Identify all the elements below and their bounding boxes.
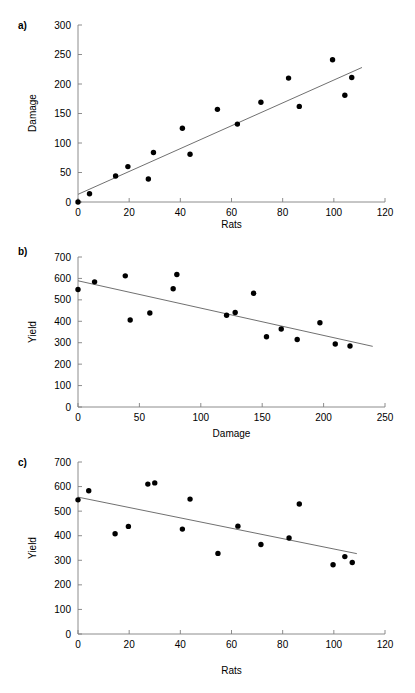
data-point xyxy=(251,291,256,296)
data-point xyxy=(232,310,237,315)
data-point xyxy=(349,75,354,80)
x-tick-label: 250 xyxy=(377,412,394,423)
data-point xyxy=(92,279,97,284)
x-tick-label: 20 xyxy=(124,207,136,218)
data-point xyxy=(330,562,335,567)
x-tick-label: 20 xyxy=(124,639,136,650)
panel-a-plot: 020406080100120050100150200250300RatsDam… xyxy=(0,0,415,235)
data-point xyxy=(330,57,335,62)
data-point xyxy=(286,535,291,540)
x-tick-label: 0 xyxy=(75,412,81,423)
x-tick-label: 50 xyxy=(134,412,146,423)
y-tick-label: 200 xyxy=(54,79,71,90)
figure-scatter-panels: a) 020406080100120050100150200250300Rats… xyxy=(0,0,415,693)
y-tick-label: 600 xyxy=(54,481,71,492)
y-tick-label: 700 xyxy=(54,252,71,263)
y-tick-label: 50 xyxy=(60,167,72,178)
y-tick-label: 0 xyxy=(65,402,71,413)
data-point xyxy=(86,488,91,493)
data-point xyxy=(127,317,132,322)
x-tick-label: 80 xyxy=(277,639,289,650)
data-point xyxy=(152,480,157,485)
x-axis-title: Rats xyxy=(221,219,242,230)
x-tick-label: 0 xyxy=(75,639,81,650)
data-point xyxy=(297,501,302,506)
x-tick-label: 100 xyxy=(192,412,209,423)
x-tick-label: 100 xyxy=(325,207,342,218)
data-point xyxy=(146,176,151,181)
y-axis-title: Damage xyxy=(27,94,38,132)
x-axis-title: Rats xyxy=(221,665,242,676)
y-tick-label: 100 xyxy=(54,380,71,391)
regression-line xyxy=(78,67,362,194)
y-tick-label: 300 xyxy=(54,337,71,348)
y-tick-label: 500 xyxy=(54,294,71,305)
data-point xyxy=(113,173,118,178)
data-point xyxy=(75,199,80,204)
y-tick-label: 0 xyxy=(65,197,71,208)
data-point xyxy=(258,100,263,105)
y-tick-label: 200 xyxy=(54,579,71,590)
y-tick-label: 250 xyxy=(54,49,71,60)
y-tick-label: 0 xyxy=(65,629,71,640)
data-point xyxy=(126,524,131,529)
data-point xyxy=(215,107,220,112)
y-tick-label: 500 xyxy=(54,506,71,517)
data-point xyxy=(279,326,284,331)
y-tick-label: 300 xyxy=(54,555,71,566)
data-point xyxy=(75,497,80,502)
y-tick-label: 600 xyxy=(54,273,71,284)
data-point xyxy=(317,320,322,325)
data-point xyxy=(87,191,92,196)
y-tick-label: 100 xyxy=(54,138,71,149)
data-point xyxy=(123,273,128,278)
data-point xyxy=(174,272,179,277)
data-point xyxy=(112,531,117,536)
y-tick-label: 400 xyxy=(54,530,71,541)
x-tick-label: 60 xyxy=(226,639,238,650)
data-point xyxy=(224,313,229,318)
data-point xyxy=(333,341,338,346)
y-axis-title: Yield xyxy=(27,321,38,343)
data-point xyxy=(347,343,352,348)
data-point xyxy=(75,287,80,292)
y-tick-label: 100 xyxy=(54,604,71,615)
data-point xyxy=(187,152,192,157)
x-tick-label: 40 xyxy=(175,207,187,218)
panel-a: a) 020406080100120050100150200250300Rats… xyxy=(0,0,415,235)
data-point xyxy=(258,542,263,547)
x-tick-label: 120 xyxy=(377,639,394,650)
x-tick-label: 60 xyxy=(226,207,238,218)
data-point xyxy=(235,121,240,126)
panel-c-plot: 0204060801001200100200300400500600700Rat… xyxy=(0,452,415,693)
regression-line xyxy=(78,497,357,554)
x-tick-label: 200 xyxy=(315,412,332,423)
data-point xyxy=(297,104,302,109)
data-point xyxy=(264,334,269,339)
data-point xyxy=(342,554,347,559)
panel-c: c) 0204060801001200100200300400500600700… xyxy=(0,452,415,693)
y-tick-label: 400 xyxy=(54,316,71,327)
y-tick-label: 700 xyxy=(54,457,71,468)
x-tick-label: 0 xyxy=(75,207,81,218)
data-point xyxy=(180,126,185,131)
y-tick-label: 300 xyxy=(54,20,71,31)
x-tick-label: 120 xyxy=(377,207,394,218)
data-point xyxy=(342,93,347,98)
data-point xyxy=(147,310,152,315)
data-point xyxy=(215,551,220,556)
y-tick-label: 150 xyxy=(54,108,71,119)
x-tick-label: 80 xyxy=(277,207,289,218)
panel-b-plot: 0501001502002500100200300400500600700Dam… xyxy=(0,232,415,460)
x-tick-label: 150 xyxy=(254,412,271,423)
panel-b: b) 0501001502002500100200300400500600700… xyxy=(0,232,415,460)
x-axis-title: Damage xyxy=(213,428,251,439)
data-point xyxy=(170,286,175,291)
y-axis-title: Yield xyxy=(27,537,38,559)
data-point xyxy=(145,481,150,486)
data-point xyxy=(235,523,240,528)
data-point xyxy=(151,150,156,155)
x-tick-label: 100 xyxy=(325,639,342,650)
data-point xyxy=(187,496,192,501)
x-tick-label: 40 xyxy=(175,639,187,650)
